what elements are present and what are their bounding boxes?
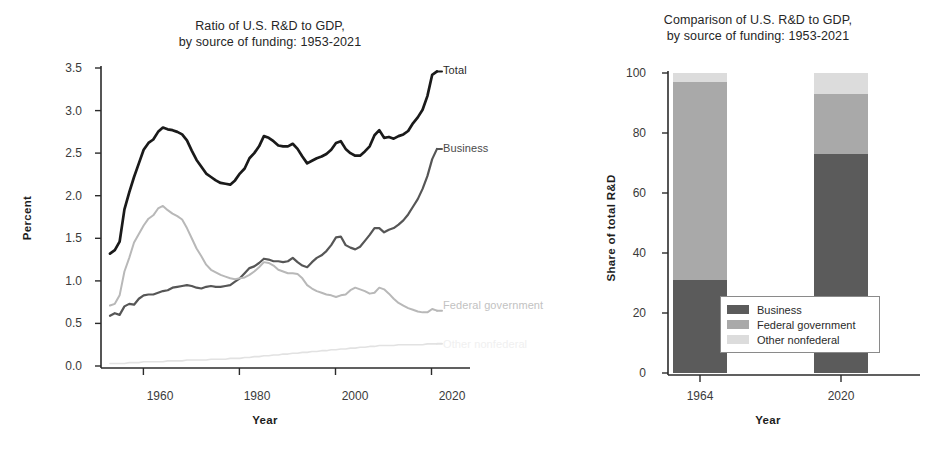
line-series-business <box>110 149 437 316</box>
bar-segment-1964-business <box>673 280 727 373</box>
legend-label-federal-government: Federal government <box>757 319 855 331</box>
line-chart-y-ticks <box>95 68 101 366</box>
line-series-other-nonfederal <box>110 344 437 364</box>
bar-chart-x-ticks <box>700 375 841 382</box>
legend-swatch-other-nonfederal <box>727 335 749 344</box>
bar-segment-2020-federal-government <box>814 94 868 154</box>
legend-label-business: Business <box>757 304 802 316</box>
bar-chart-y-ticks <box>662 73 668 373</box>
bar-chart-legend: Business Federal government Other nonfed… <box>720 296 880 353</box>
bar-segment-1964-federal-government <box>673 82 727 280</box>
bar-chart-plot <box>580 0 935 454</box>
line-series-total <box>110 71 437 253</box>
line-chart-plot <box>0 0 580 454</box>
legend-swatch-business <box>727 305 749 314</box>
line-series-federal-government <box>110 206 437 312</box>
line-chart-panel: Ratio of U.S. R&D to GDP, by source of f… <box>0 0 580 454</box>
legend-item-business: Business <box>727 302 871 317</box>
legend-swatch-federal-government <box>727 320 749 329</box>
figure-page: Ratio of U.S. R&D to GDP, by source of f… <box>0 0 935 454</box>
line-chart-x-ticks <box>143 368 431 375</box>
bar-segment-2020-other-nonfederal <box>814 73 868 94</box>
legend-item-other-nonfederal: Other nonfederal <box>727 332 871 347</box>
legend-label-other-nonfederal: Other nonfederal <box>757 334 840 346</box>
bar-segment-1964-other-nonfederal <box>673 73 727 82</box>
bar-chart-panel: Comparison of U.S. R&D to GDP, by source… <box>580 0 935 454</box>
legend-item-federal-government: Federal government <box>727 317 871 332</box>
